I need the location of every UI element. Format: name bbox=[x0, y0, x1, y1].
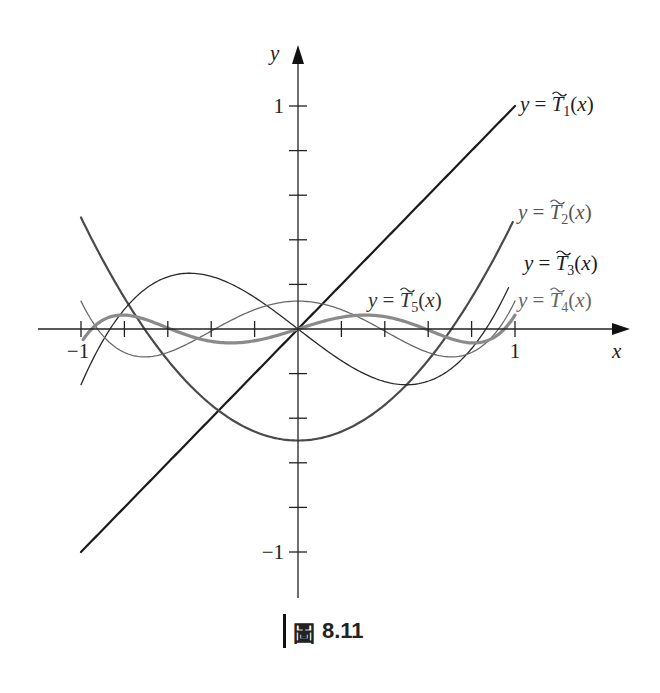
series-label-text: y = T4(x) bbox=[516, 288, 592, 315]
series-label-t2: y = T2(x) bbox=[516, 200, 592, 227]
caption-figure-word: 圖 bbox=[293, 615, 315, 647]
series-label-text: y = T3(x) bbox=[522, 251, 598, 278]
chebyshev-chart: x y −111−1 y = T1(x)y = T2(x)y = T3(x)y … bbox=[0, 0, 660, 693]
caption-bar bbox=[283, 614, 286, 648]
y-tick-label: 1 bbox=[274, 94, 285, 118]
series-label-text: y = T5(x) bbox=[366, 288, 442, 315]
axes-group bbox=[38, 45, 630, 598]
y-tick-label: −1 bbox=[262, 540, 284, 564]
x-axis-arrow-icon bbox=[612, 323, 630, 335]
x-tick-label: 1 bbox=[510, 339, 521, 363]
series-label-t4: y = T4(x) bbox=[516, 288, 592, 315]
series-label-t1: y = T1(x) bbox=[518, 92, 594, 119]
x-tick-label: −1 bbox=[67, 339, 89, 363]
figure-caption: 圖 8.11 bbox=[283, 614, 364, 648]
series-label-text: y = T1(x) bbox=[518, 92, 594, 119]
x-axis-label: x bbox=[611, 339, 622, 363]
series-label-t3: y = T3(x) bbox=[522, 251, 598, 278]
y-axis-arrow-icon bbox=[292, 45, 304, 64]
series-label-t5: y = T5(x) bbox=[366, 288, 442, 315]
caption-number: 8.11 bbox=[322, 618, 364, 644]
series-label-text: y = T2(x) bbox=[516, 200, 592, 227]
y-axis-label: y bbox=[268, 41, 280, 65]
